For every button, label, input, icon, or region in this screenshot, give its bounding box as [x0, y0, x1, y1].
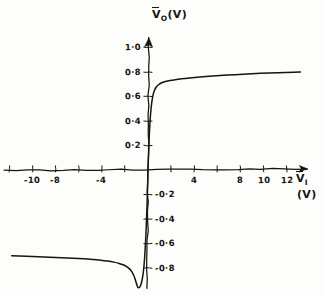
y-axis-title-unit: (V) — [168, 8, 187, 21]
vector-bar-icon — [152, 7, 159, 8]
x-axis-title: VI — [296, 172, 308, 187]
y-tick-label: 0·2 — [125, 140, 141, 150]
x-tick-mark — [55, 166, 56, 172]
vector-bar-icon — [296, 171, 303, 172]
x-tick-label: 4 — [191, 175, 197, 185]
y-tick-label: 1·0 — [125, 42, 141, 52]
y-tick-label: 0·4 — [125, 115, 141, 125]
x-axis-unit-text: (V) — [297, 188, 316, 201]
x-tick-label: 12 — [280, 175, 293, 185]
y-axis-title: VO(V) — [152, 8, 187, 23]
axis-layer — [4, 38, 307, 289]
x-axis-title-main: V — [296, 172, 305, 185]
y-tick-label: -0·2 — [155, 189, 175, 200]
x-tick-label: 8 — [237, 175, 243, 185]
x-tick-mark — [286, 166, 287, 172]
x-tick-mark — [263, 166, 264, 172]
x-axis-title-sub: I — [305, 178, 308, 187]
x-axis-title-symbol: V — [296, 172, 305, 185]
chart-canvas — [0, 0, 326, 296]
x-tick-label: 10 — [257, 175, 270, 185]
y-tick-mark — [144, 145, 152, 146]
x-tick-label: -4 — [96, 175, 106, 185]
y-tick-label: -0·8 — [155, 262, 175, 273]
x-tick-label: -8 — [49, 175, 59, 185]
y-tick-mark — [144, 268, 152, 269]
y-tick-label: 0·6 — [125, 91, 141, 101]
hand-drawn-chart: -10-8-44810121·00·80·60·40·2-0·2-0·4-0·6… — [0, 0, 326, 296]
y-tick-label: -0·4 — [155, 213, 175, 224]
x-axis-unit: (V) — [297, 188, 316, 201]
y-tick-label: -0·6 — [155, 238, 175, 249]
y-tick-label: 0·8 — [125, 66, 141, 76]
x-tick-mark — [194, 166, 195, 172]
x-axis-line — [4, 168, 307, 171]
y-axis-title-sub: O — [161, 14, 168, 23]
x-tick-label: -10 — [23, 175, 40, 185]
y-axis-title-symbol: V — [152, 8, 161, 21]
y-axis-title-main: V — [152, 8, 161, 21]
